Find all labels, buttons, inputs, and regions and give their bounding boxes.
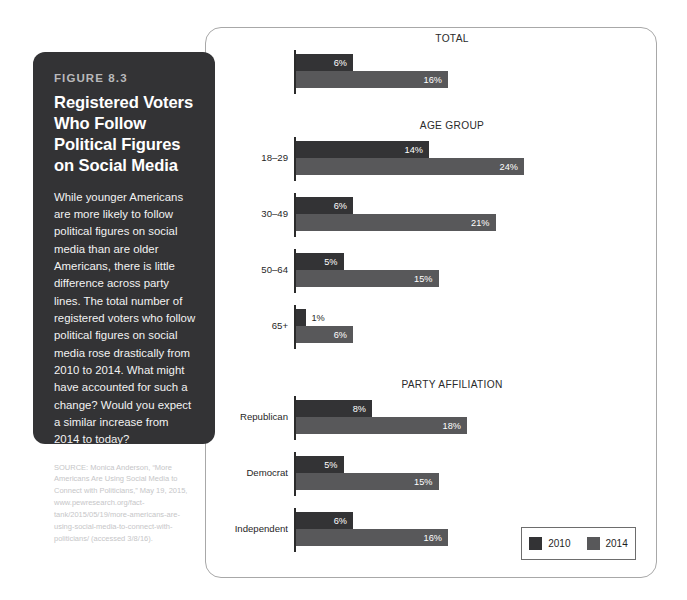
bar-2014: 15% [296, 473, 439, 490]
bar-group: 30–496%21% [228, 193, 648, 237]
bar-2014: 16% [296, 71, 448, 88]
bar-2010: 1% [296, 309, 306, 326]
bar-value-label: 5% [324, 257, 343, 267]
legend-swatch-icon [587, 537, 600, 550]
bar-value-label: 8% [353, 404, 372, 414]
legend-item: 2014 [587, 537, 628, 550]
bar-group-label: 65+ [228, 319, 288, 333]
bar-2010: 6% [296, 197, 353, 214]
figure-number: FIGURE 8.3 [54, 72, 196, 84]
bar-2014: 24% [296, 158, 524, 175]
figure-title: Registered Voters Who Follow Political F… [54, 93, 196, 177]
bar-group-label: 50–64 [228, 263, 288, 277]
figure-description: While younger Americans are more likely … [54, 189, 196, 449]
bar-group-label: Democrat [228, 466, 288, 480]
chart-section: TOTAL6%16% [228, 33, 648, 94]
figure-source-citation: SOURCE: Monica Anderson, “More Americans… [54, 462, 196, 545]
bar-2014: 21% [296, 214, 496, 231]
bar-value-label: 6% [334, 330, 353, 340]
bar-group: 6%16% [228, 50, 648, 94]
bar-group-label: 18–29 [228, 151, 288, 165]
chart-legend: 20102014 [521, 527, 636, 560]
bar-value-label: 16% [424, 533, 448, 543]
bar-2014: 6% [296, 326, 353, 343]
section-title: AGE GROUP [228, 120, 648, 131]
bar-group: 50–645%15% [228, 249, 648, 293]
bar-value-label: 5% [324, 460, 343, 470]
bar-value-label: 6% [334, 201, 353, 211]
section-title: PARTY AFFILIATION [228, 379, 648, 390]
bar-value-label: 18% [443, 421, 467, 431]
bar-group-label: Republican [228, 410, 288, 424]
bar-value-label: 21% [471, 218, 495, 228]
bar-2010: 5% [296, 253, 344, 270]
bar-group: Democrat5%15% [228, 452, 648, 496]
bar-value-label: 24% [500, 162, 524, 172]
bar-group: 65+1%6% [228, 305, 648, 349]
bar-value-label: 15% [414, 477, 438, 487]
bar-value-label: 16% [424, 75, 448, 85]
bar-value-label: 6% [334, 58, 353, 68]
bar-2010: 6% [296, 54, 353, 71]
bar-2010: 5% [296, 456, 344, 473]
bar-value-label: 15% [414, 274, 438, 284]
figure-caption-panel: FIGURE 8.3 Registered Voters Who Follow … [33, 52, 215, 444]
bar-value-label: 14% [405, 145, 429, 155]
bar-2014: 16% [296, 529, 448, 546]
bar-value-label: 6% [334, 516, 353, 526]
bar-2010: 14% [296, 141, 429, 158]
bar-2014: 18% [296, 417, 467, 434]
bar-value-label: 1% [306, 313, 325, 323]
legend-swatch-icon [529, 537, 542, 550]
legend-label: 2014 [606, 538, 628, 549]
chart-section: AGE GROUP18–2914%24%30–496%21%50–645%15%… [228, 120, 648, 349]
bar-group: Republican8%18% [228, 396, 648, 440]
bar-2010: 6% [296, 512, 353, 529]
bar-2014: 15% [296, 270, 439, 287]
bar-group-label: 30–49 [228, 207, 288, 221]
legend-item: 2010 [529, 537, 570, 550]
bar-chart: TOTAL6%16%AGE GROUP18–2914%24%30–496%21%… [228, 33, 648, 513]
section-title: TOTAL [228, 33, 648, 44]
bar-2010: 8% [296, 400, 372, 417]
legend-label: 2010 [548, 538, 570, 549]
bar-group-label: Independent [228, 522, 288, 536]
bar-group: 18–2914%24% [228, 137, 648, 181]
